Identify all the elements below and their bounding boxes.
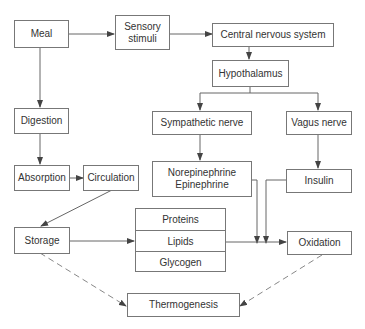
node-hypothalamus: Hypothalamus [212, 60, 289, 87]
node-circulation-label: Circulation [87, 172, 134, 184]
node-digestion-label: Digestion [21, 115, 63, 127]
node-central-nervous-system: Central nervous system [212, 23, 334, 47]
node-sensory-label-2: stimuli [128, 33, 156, 45]
node-circulation: Circulation [83, 165, 139, 191]
node-insulin: Insulin [286, 169, 352, 193]
node-absorption: Absorption [14, 165, 70, 191]
node-vagus-label: Vagus nerve [291, 117, 346, 129]
node-lipids-label: Lipids [167, 236, 193, 247]
node-sensory-label-1: Sensory [124, 21, 161, 33]
node-sympathetic-label: Sympathetic nerve [161, 117, 244, 129]
node-epinephrine-label: Epinephrine [175, 179, 228, 191]
node-vagus-nerve: Vagus nerve [286, 111, 352, 135]
node-glycogen-label: Glycogen [159, 257, 201, 268]
node-absorption-label: Absorption [18, 172, 66, 184]
node-nutrient-stores: Proteins Lipids Glycogen [135, 208, 226, 272]
node-meal: Meal [14, 20, 69, 48]
node-oxidation-label: Oxidation [298, 237, 340, 249]
node-meal-label: Meal [31, 28, 53, 40]
stack-cell-lipids: Lipids [136, 230, 225, 251]
node-oxidation: Oxidation [287, 231, 352, 255]
node-proteins-label: Proteins [162, 214, 199, 225]
node-norepinephrine-label: Norepinephrine [168, 167, 236, 179]
node-storage: Storage [14, 227, 70, 254]
node-hypothalamus-label: Hypothalamus [219, 68, 283, 80]
node-cns-label: Central nervous system [220, 29, 325, 41]
node-norepinephrine-epinephrine: Norepinephrine Epinephrine [152, 161, 252, 197]
stack-cell-proteins: Proteins [136, 209, 225, 230]
node-sensory-stimuli: Sensory stimuli [115, 15, 170, 50]
node-storage-label: Storage [24, 235, 59, 247]
node-thermogenesis: Thermogenesis [127, 293, 240, 317]
stack-cell-glycogen: Glycogen [136, 251, 225, 272]
node-thermogenesis-label: Thermogenesis [149, 299, 218, 311]
node-insulin-label: Insulin [305, 175, 334, 187]
node-digestion: Digestion [14, 108, 69, 134]
node-sympathetic-nerve: Sympathetic nerve [152, 111, 252, 135]
